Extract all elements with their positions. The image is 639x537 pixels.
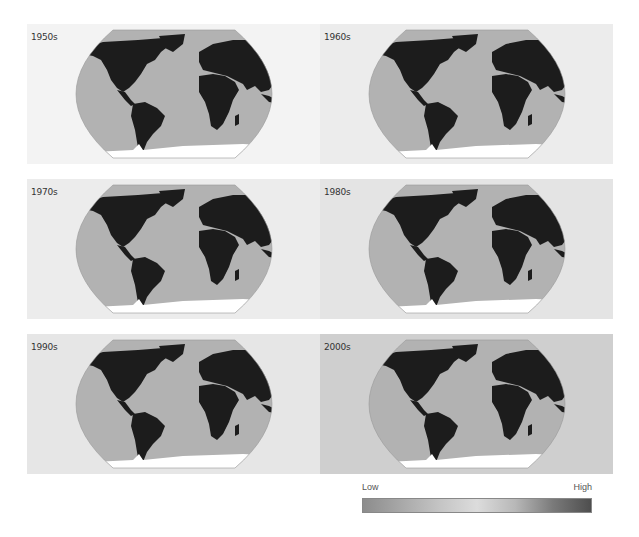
world-map bbox=[320, 179, 613, 319]
legend-high-label: High bbox=[573, 482, 592, 492]
map-panel-1970s: 1970s bbox=[27, 179, 320, 319]
map-panel-1980s: 1980s bbox=[320, 179, 613, 319]
map-panel-1960s: 1960s bbox=[320, 24, 613, 164]
legend-gradient-bar bbox=[362, 498, 592, 513]
map-panel-2000s: 2000s bbox=[320, 334, 613, 474]
map-panel-1990s: 1990s bbox=[27, 334, 320, 474]
world-map bbox=[27, 179, 320, 319]
world-map bbox=[27, 24, 320, 164]
world-map bbox=[320, 334, 613, 474]
legend-low-label: Low bbox=[362, 482, 379, 492]
color-scale-legend: Low High bbox=[362, 482, 592, 518]
map-panel-1950s: 1950s bbox=[27, 24, 320, 164]
world-map bbox=[27, 334, 320, 474]
world-map bbox=[320, 24, 613, 164]
